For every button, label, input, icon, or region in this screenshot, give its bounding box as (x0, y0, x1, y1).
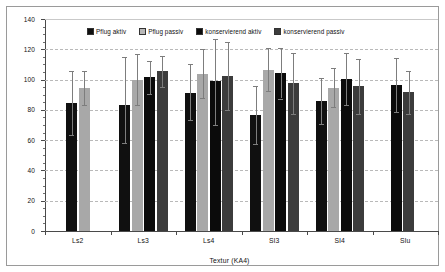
error-bar (334, 68, 335, 107)
error-bar-cap-lower (135, 105, 140, 106)
legend-swatch-icon (274, 28, 281, 35)
x-tick-mark (45, 231, 46, 235)
error-bar-cap-lower (122, 143, 127, 144)
x-tick-mark (176, 231, 177, 235)
error-bar-cap-lower (406, 114, 411, 115)
legend-swatch-icon (139, 28, 146, 35)
x-axis-title: Textur (KA4) (7, 257, 445, 264)
y-tick-label: 20 (9, 197, 35, 204)
error-bar (256, 86, 257, 144)
y-tick-label: 0 (9, 228, 35, 235)
error-bar-cap-upper (406, 71, 411, 72)
error-bar-cap-upper (135, 54, 140, 55)
bar (144, 77, 155, 231)
error-bar-cap-lower (253, 144, 258, 145)
legend-item: konservierend aktiv (196, 28, 261, 35)
error-bar (268, 48, 269, 91)
error-bar (409, 71, 410, 113)
legend-label: Pflug passiv (148, 28, 183, 35)
x-tick-mark (242, 231, 243, 235)
bar (157, 71, 168, 231)
legend-item: Pflug aktiv (87, 28, 126, 35)
x-tick-label: Sl3 (242, 237, 308, 244)
y-tick-label: 140 (9, 16, 35, 23)
error-bar-cap-upper (344, 53, 349, 54)
error-bar-cap-upper (266, 48, 271, 49)
legend-item: Pflug passiv (139, 28, 183, 35)
error-bar-cap-upper (160, 56, 165, 57)
y-tick-label: 100 (9, 76, 35, 83)
error-bar-cap-lower (69, 135, 74, 136)
error-bar (150, 61, 151, 94)
error-bar-cap-upper (188, 64, 193, 65)
error-bar-cap-upper (82, 71, 87, 72)
x-tick-label: Sl4 (307, 237, 373, 244)
error-bar-cap-upper (394, 58, 399, 59)
error-bar-cap-lower (266, 91, 271, 92)
error-bar-cap-lower (344, 105, 349, 106)
error-bar-cap-upper (69, 71, 74, 72)
x-tick-label: Ls2 (45, 237, 111, 244)
legend-label: konservierend passiv (283, 28, 344, 35)
y-tick-label: 120 (9, 46, 35, 53)
x-tick-label: Ls4 (176, 237, 242, 244)
error-bar (228, 42, 229, 109)
x-tick-label: Ls3 (111, 237, 177, 244)
chart-legend: Pflug aktivPflug passivkonservierend akt… (87, 28, 345, 35)
error-bar (321, 78, 322, 124)
legend-label: konservierend aktiv (205, 28, 261, 35)
error-bar-cap-lower (319, 124, 324, 125)
error-bar-cap-upper (200, 49, 205, 50)
legend-item: konservierend passiv (274, 28, 344, 35)
error-bar-cap-lower (356, 114, 361, 115)
y-tick-label: 80 (9, 106, 35, 113)
x-tick-mark (438, 231, 439, 235)
error-bar-cap-lower (394, 112, 399, 113)
error-bar (72, 71, 73, 135)
bar (328, 88, 339, 231)
error-bar-cap-lower (188, 120, 193, 121)
error-bar (203, 49, 204, 97)
error-bar-cap-lower (82, 105, 87, 106)
error-bar-cap-lower (291, 114, 296, 115)
error-bar (162, 56, 163, 87)
error-bar-cap-upper (253, 86, 258, 87)
legend-swatch-icon (87, 28, 94, 35)
error-bar (137, 54, 138, 105)
error-bar-cap-lower (213, 125, 218, 126)
bar-chart-figure: 020406080100120140 Ls2Ls3Ls4Sl3Sl4Slu MD… (0, 0, 445, 272)
error-bar-cap-lower (278, 99, 283, 100)
x-tick-label: Slu (373, 237, 439, 244)
error-bar (125, 57, 126, 143)
error-bar-cap-upper (356, 59, 361, 60)
legend-label: Pflug aktiv (96, 28, 126, 35)
error-bar (190, 64, 191, 121)
error-bar-cap-upper (278, 48, 283, 49)
bar (79, 88, 90, 231)
error-bar (215, 39, 216, 125)
error-bar (84, 71, 85, 104)
error-bar-cap-lower (225, 110, 230, 111)
bars-layer (45, 19, 438, 231)
error-bar (346, 53, 347, 104)
error-bar-cap-lower (160, 87, 165, 88)
error-bar-cap-upper (331, 68, 336, 69)
error-bar-cap-upper (147, 61, 152, 62)
error-bar-cap-lower (147, 94, 152, 95)
error-bar-cap-upper (319, 78, 324, 79)
legend-swatch-icon (196, 28, 203, 35)
error-bar (281, 48, 282, 99)
figure-frame: 020406080100120140 Ls2Ls3Ls4Sl3Sl4Slu MD… (6, 6, 439, 266)
y-tick-label: 60 (9, 137, 35, 144)
x-tick-mark (307, 231, 308, 235)
error-bar-cap-upper (122, 57, 127, 58)
error-bar (396, 58, 397, 113)
x-tick-mark (111, 231, 112, 235)
error-bar-cap-upper (213, 39, 218, 40)
bar (263, 70, 274, 231)
error-bar-cap-upper (291, 53, 296, 54)
error-bar-cap-lower (331, 107, 336, 108)
error-bar-cap-lower (200, 98, 205, 99)
error-bar-cap-upper (225, 42, 230, 43)
error-bar (359, 59, 360, 114)
